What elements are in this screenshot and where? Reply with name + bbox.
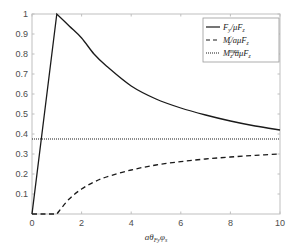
x-tick-label: 4 bbox=[129, 218, 134, 228]
y-tick-label: 0.2 bbox=[15, 169, 28, 179]
legend-label: M′z/aμFz bbox=[222, 35, 250, 47]
x-tick-label: 2 bbox=[79, 218, 84, 228]
legend: Fy/μFzM′z/aμFzMmaxz/aμFz bbox=[203, 18, 279, 62]
x-tick-label: 8 bbox=[228, 218, 233, 228]
y-tick-label: 0.9 bbox=[15, 29, 28, 39]
y-tick-label: 0.7 bbox=[15, 69, 28, 79]
x-tick-label: 6 bbox=[178, 218, 183, 228]
y-tick-label: 0.8 bbox=[15, 49, 28, 59]
line-chart: 0.10.20.30.40.50.60.70.80.91 0246810 Fy/… bbox=[0, 0, 298, 248]
y-tick-label: 1 bbox=[23, 9, 28, 19]
legend-label: Fy/μFz bbox=[222, 22, 245, 33]
y-tick-label: 0.4 bbox=[15, 129, 28, 139]
x-tick-label: 10 bbox=[275, 218, 285, 228]
x-tick-label: 0 bbox=[29, 218, 34, 228]
legend-label: Mmaxz/aμFz bbox=[222, 48, 251, 60]
y-tick-label: 0.5 bbox=[15, 109, 28, 119]
y-tick-label: 0.3 bbox=[15, 149, 28, 159]
y-tick-label: 0.1 bbox=[15, 189, 28, 199]
y-tick-label: 0.6 bbox=[15, 89, 28, 99]
